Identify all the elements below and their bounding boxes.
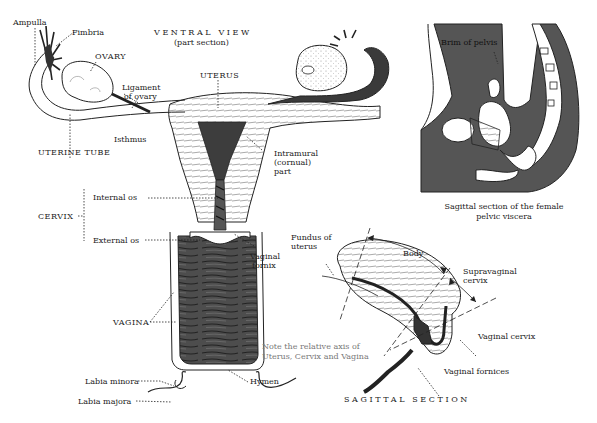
label-ampulla: Ampulla [13, 18, 47, 27]
label-external-os: External os [93, 236, 139, 245]
label-cervix: CERVIX [38, 212, 73, 221]
label-vaginal-fornix-2: fornix [252, 261, 276, 270]
anatomy-diagram: VENTRAL VIEW (part section) Ampulla Fimb… [0, 0, 597, 423]
label-ovary: OVARY [95, 52, 126, 61]
note-line-1: Note the relative axis of [262, 342, 360, 351]
label-ligament-of-ovary-1: Ligament [122, 83, 160, 92]
label-ligament-of-ovary-2: of ovary [124, 92, 157, 101]
label-labia-majora: Labia majora [78, 397, 131, 406]
label-internal-os: Internal os [93, 193, 137, 202]
label-fundus-1: Fundus of [291, 233, 332, 242]
ventral-view-subtitle: (part section) [174, 38, 229, 47]
label-vaginal-fornix-1: Vaginal [250, 252, 280, 261]
label-uterine-tube: UTERINE TUBE [38, 148, 110, 157]
label-isthmus: Isthmus [114, 135, 146, 144]
label-supravaginal-2: cervix [463, 276, 488, 285]
label-body: Body [403, 249, 423, 258]
label-intramural-3: part [274, 167, 291, 176]
pelvic-sagittal-section [421, 24, 591, 194]
label-intramural-2: (cornual) [274, 158, 311, 167]
label-vaginal-fornices: Vaginal fornices [444, 367, 509, 376]
label-vaginal-cervix: Vaginal cervix [478, 332, 535, 341]
note-line-2: Uterus, Cervix and Vagina [262, 352, 369, 361]
label-intramural-1: Intramural [274, 149, 318, 158]
label-fundus-2: uterus [291, 242, 317, 251]
sagittal-section-title: SAGITTAL SECTION [344, 395, 470, 404]
label-labia-minora: Labia minora [85, 377, 139, 386]
label-brim-of-pelvis: Brim of pelvis [441, 38, 497, 47]
left-fimbria-shading [44, 44, 54, 72]
ventral-view-title: VENTRAL VIEW [154, 28, 252, 37]
pelvis-caption-line-1: Sagittal section of the female [444, 202, 564, 211]
label-fimbria: Fimbria [72, 28, 104, 37]
label-hymen: Hymen [250, 377, 279, 386]
label-supravaginal-1: Supravaginal [463, 267, 517, 276]
label-vagina: VAGINA [113, 318, 149, 327]
label-uterus: UTERUS [200, 71, 239, 80]
left-ovary [62, 61, 113, 102]
pelvis-caption-line-2: pelvic viscera [444, 212, 564, 221]
